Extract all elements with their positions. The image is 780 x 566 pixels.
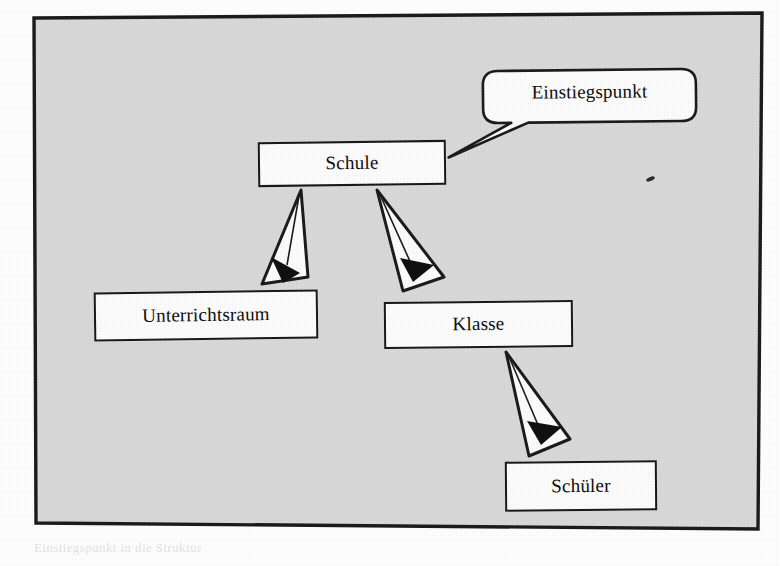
- edge-schule-klasse: [377, 190, 444, 291]
- callout-einstiegspunkt[interactable]: Einstiegspunkt: [481, 67, 699, 125]
- node-schueler[interactable]: Schüler: [505, 460, 657, 511]
- node-schueler-label: Schüler: [551, 475, 611, 497]
- callout-label: Einstiegspunkt: [481, 67, 698, 117]
- node-klasse-label: Klasse: [452, 314, 504, 336]
- edge-schule-unterrichtsraum: [262, 190, 308, 284]
- node-unterrichtsraum-label: Unterrichtsraum: [142, 304, 270, 327]
- node-schule[interactable]: Schule: [258, 140, 447, 187]
- node-klasse[interactable]: Klasse: [384, 300, 573, 349]
- edge-klasse-schueler: [506, 352, 570, 456]
- object-diagram: Schule Unterrichtsraum Klasse Schüler Ei…: [0, 0, 780, 566]
- scanned-page: Das Objekt vom Typ Schule ist der der me…: [0, 0, 780, 566]
- node-schule-label: Schule: [325, 153, 378, 175]
- node-unterrichtsraum[interactable]: Unterrichtsraum: [94, 289, 319, 341]
